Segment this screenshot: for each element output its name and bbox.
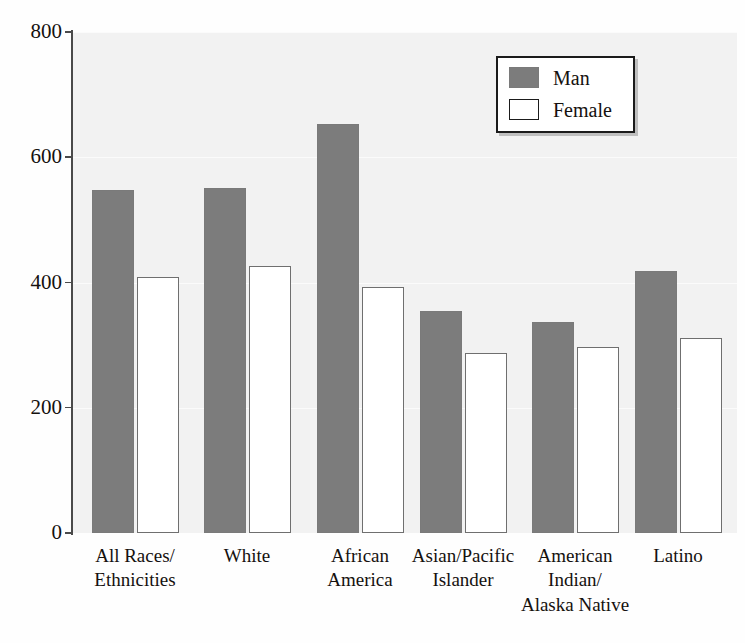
legend-swatch-man-icon (509, 67, 539, 88)
y-tick-mark (65, 31, 72, 33)
y-tick-label: 200 (0, 397, 62, 418)
legend-swatch-female-icon (509, 99, 539, 120)
y-tick-label: 400 (0, 272, 62, 293)
y-tick-mark (65, 156, 72, 158)
y-tick-mark (65, 532, 72, 534)
gridline (72, 157, 737, 158)
x-axis-label: Latino (583, 544, 745, 568)
legend-label-man: Man (553, 68, 590, 88)
legend-item-man: Man (509, 67, 590, 88)
y-tick-label: 800 (0, 21, 62, 42)
y-tick-label: 0 (0, 522, 62, 543)
bar-female (465, 353, 507, 533)
bar-female (680, 338, 722, 533)
bar-female (577, 347, 619, 533)
gridline (72, 32, 737, 33)
bar-man (420, 311, 462, 533)
bar-man (204, 188, 246, 533)
bar-female (137, 277, 179, 533)
legend-item-female: Female (509, 99, 612, 120)
legend-label-female: Female (553, 100, 612, 120)
y-tick-mark (65, 407, 72, 409)
bar-man (635, 271, 677, 533)
bar-man (532, 322, 574, 533)
bar-man (92, 190, 134, 533)
bar-man (317, 124, 359, 533)
y-tick-label: 600 (0, 146, 62, 167)
y-tick-mark (65, 282, 72, 284)
bar-chart: 0200400600800 All Races/ EthnicitiesWhit… (0, 0, 745, 643)
bar-female (362, 287, 404, 533)
bar-female (249, 266, 291, 533)
legend: Man Female (496, 56, 635, 133)
